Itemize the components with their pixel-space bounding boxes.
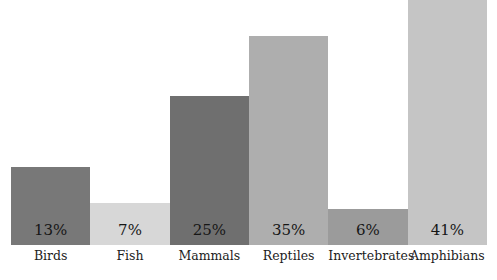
bar-value-invertebrates: 6% [328,223,407,238]
category-label-mammals: Mammals [170,249,249,263]
bar-mammals[interactable]: 25% [170,96,249,245]
category-label-amphibians: Amphibians [408,249,487,263]
bar-invertebrates[interactable]: 6% [328,209,407,245]
bar-reptiles[interactable]: 35% [249,36,328,245]
bar-chart: 13% 7% 25% 35% 6% 41% Birds Fish Mammals… [0,0,497,280]
bar-value-birds: 13% [11,223,90,238]
bar-value-amphibians: 41% [408,223,487,238]
category-label-fish: Fish [90,249,169,263]
bar-birds[interactable]: 13% [11,167,90,245]
plot-area: 13% 7% 25% 35% 6% 41% [11,0,487,245]
bar-fish[interactable]: 7% [90,203,169,245]
category-axis: Birds Fish Mammals Reptiles Invertebrate… [11,249,487,273]
category-label-reptiles: Reptiles [249,249,328,263]
bar-value-mammals: 25% [170,223,249,238]
category-label-birds: Birds [11,249,90,263]
category-label-invertebrates: Invertebrates [328,249,407,263]
bar-amphibians[interactable]: 41% [408,0,487,245]
bar-value-reptiles: 35% [249,223,328,238]
bar-value-fish: 7% [90,223,169,238]
